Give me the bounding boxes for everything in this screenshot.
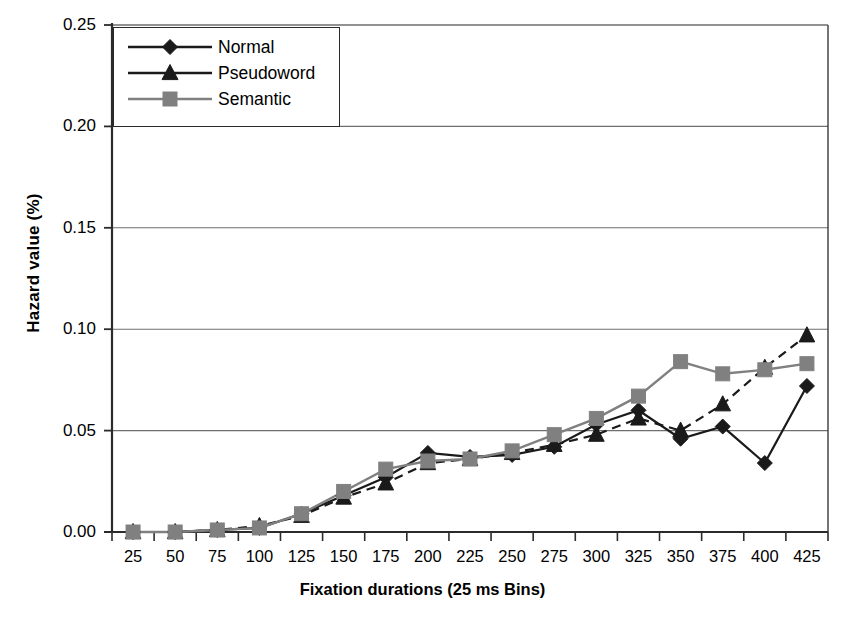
- data-marker-diamond: [799, 378, 814, 393]
- data-marker-square: [126, 525, 140, 539]
- legend-swatch-triangle: [120, 60, 220, 86]
- data-marker-square: [631, 389, 645, 403]
- data-marker-square: [758, 363, 772, 377]
- legend-item-normal[interactable]: Normal: [114, 34, 339, 60]
- data-marker-square: [379, 462, 393, 476]
- legend-item-pseudoword[interactable]: Pseudoword: [114, 60, 339, 86]
- x-tick-label: 200: [407, 548, 449, 565]
- x-tick-label: 325: [617, 548, 659, 565]
- data-marker-square: [337, 484, 351, 498]
- x-tick-label: 150: [323, 548, 365, 565]
- legend-swatch-diamond: [120, 34, 220, 60]
- data-marker-square: [463, 452, 477, 466]
- x-tick-label: 275: [533, 548, 575, 565]
- data-marker-square: [252, 521, 266, 535]
- data-marker-square: [168, 525, 182, 539]
- data-marker-square: [421, 454, 435, 468]
- data-marker-triangle: [715, 396, 731, 411]
- data-marker-square: [800, 357, 814, 371]
- data-marker-square: [674, 355, 688, 369]
- legend-label: Normal: [218, 36, 274, 58]
- x-tick-label: 50: [154, 548, 196, 565]
- x-tick-label: 250: [491, 548, 533, 565]
- legend-label: Semantic: [218, 88, 291, 110]
- x-tick-label: 75: [196, 548, 238, 565]
- x-tick-label: 425: [786, 548, 828, 565]
- data-marker-square: [547, 428, 561, 442]
- data-marker-square: [295, 507, 309, 521]
- legend-label: Pseudoword: [218, 62, 315, 84]
- x-tick-label: 125: [280, 548, 322, 565]
- x-tick-label: 300: [575, 548, 617, 565]
- x-tick-label: 225: [449, 548, 491, 565]
- data-marker-square: [589, 411, 603, 425]
- data-marker-square: [505, 444, 519, 458]
- x-tick-label: 400: [744, 548, 786, 565]
- chart-figure: Hazard value (%) 0.250.200.150.100.050.0…: [0, 0, 845, 628]
- legend-swatch-square: [120, 86, 220, 112]
- legend-item-semantic[interactable]: Semantic: [114, 86, 339, 112]
- data-marker-square: [210, 523, 224, 537]
- data-marker-square: [716, 367, 730, 381]
- x-tick-label: 25: [112, 548, 154, 565]
- x-tick-label: 350: [660, 548, 702, 565]
- series-line-pseudoword: [133, 335, 807, 532]
- x-axis-title: Fixation durations (25 ms Bins): [0, 580, 845, 599]
- x-tick-label: 175: [365, 548, 407, 565]
- series-line-semantic: [133, 362, 807, 532]
- x-tick-label: 375: [702, 548, 744, 565]
- x-tick-label: 100: [238, 548, 280, 565]
- chart-legend: NormalPseudowordSemantic: [113, 27, 340, 127]
